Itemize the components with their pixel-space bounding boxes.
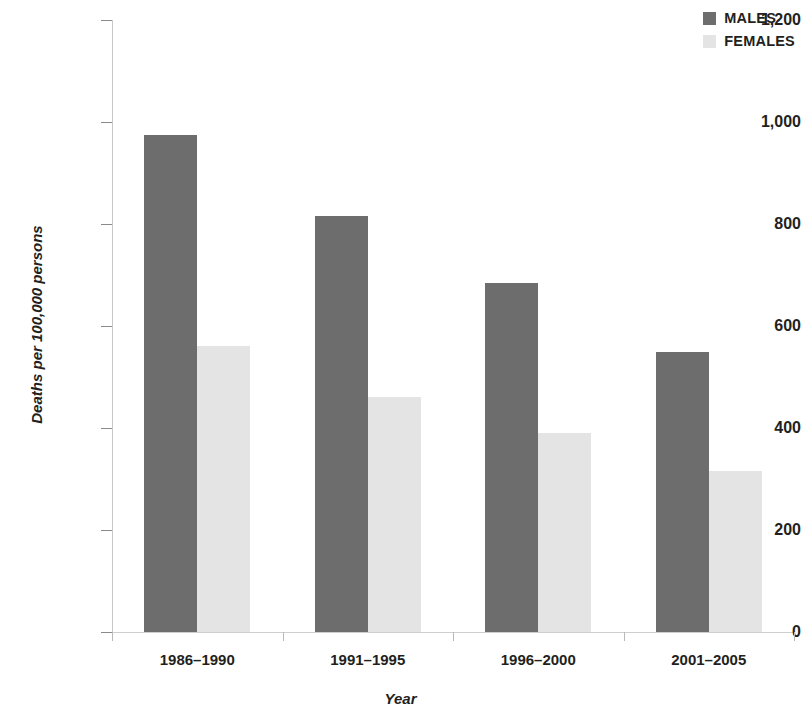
x-axis-tick-label: 1991–1995 bbox=[330, 651, 405, 668]
x-axis-tick-mark bbox=[624, 632, 625, 641]
bar-males-2001–2005 bbox=[656, 352, 709, 633]
bar-males-1996–2000 bbox=[485, 283, 538, 632]
bar-males-1991–1995 bbox=[315, 216, 368, 632]
plot-area bbox=[0, 0, 801, 719]
bar-females-1986–1990 bbox=[197, 346, 250, 632]
x-axis-tick-label: 1996–2000 bbox=[501, 651, 576, 668]
x-axis-tick-mark bbox=[453, 632, 454, 641]
x-axis-title: Year bbox=[0, 690, 801, 707]
bar-males-1986–1990 bbox=[144, 135, 197, 632]
x-axis-tick-mark bbox=[794, 632, 795, 641]
x-axis-tick-label: 1986–1990 bbox=[160, 651, 235, 668]
bar-females-2001–2005 bbox=[709, 471, 762, 632]
x-axis-tick-label: 2001–2005 bbox=[671, 651, 746, 668]
bar-chart-figure: MALES FEMALES Deaths per 100,000 persons… bbox=[0, 0, 801, 719]
x-axis-tick-mark bbox=[112, 632, 113, 641]
bar-females-1996–2000 bbox=[538, 433, 591, 632]
x-axis-tick-mark bbox=[283, 632, 284, 641]
bar-females-1991–1995 bbox=[368, 397, 421, 632]
